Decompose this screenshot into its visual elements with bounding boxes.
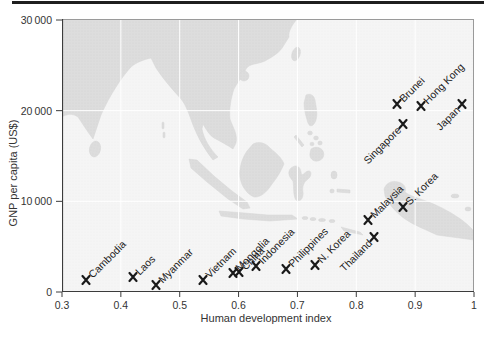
x-axis-title: Human development index (201, 312, 332, 324)
x-tick-label: 0.8 (338, 299, 374, 311)
figure: CambodiaLaosMyanmarVietnamMongoliaChinaI… (0, 0, 495, 340)
top-rule (12, 1, 484, 4)
x-tick-label: 0.6 (221, 299, 257, 311)
x-tick-label: 0.5 (162, 299, 198, 311)
y-tick-label: 30 000 (8, 14, 52, 26)
data-point-laos (127, 272, 138, 283)
y-tick-label: 20 000 (8, 105, 52, 117)
x-tick-label: 0.9 (397, 299, 433, 311)
x-tick-label: 0.3 (44, 299, 80, 311)
hainan (239, 71, 249, 81)
x-tick-label: 0.7 (279, 299, 315, 311)
y-axis-title: GNP per capita (US$) (7, 120, 19, 227)
x-tick-label: 0.4 (103, 299, 139, 311)
x-tick-label: 1 (456, 299, 492, 311)
mindanao (310, 147, 324, 161)
y-tick-label: 0 (8, 286, 52, 298)
